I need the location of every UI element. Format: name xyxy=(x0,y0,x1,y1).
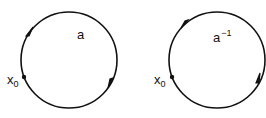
basepoint-label-text: x xyxy=(7,72,14,87)
basepoint-dot xyxy=(170,75,174,79)
basepoint-label: x0 xyxy=(154,73,166,86)
loop-diagram xyxy=(0,0,266,118)
basepoint-dot xyxy=(22,75,26,79)
loop-a-label: a xyxy=(77,28,85,41)
direction-arrow-icon xyxy=(256,73,260,83)
loop-a-inverse xyxy=(169,12,265,108)
direction-arrow-icon xyxy=(108,78,113,88)
loop-label-text: a xyxy=(77,27,84,42)
basepoint-label: x0 xyxy=(7,73,19,86)
loop-label-exponent: −1 xyxy=(221,28,231,38)
loop-a xyxy=(21,12,117,108)
basepoint-label-subscript: 0 xyxy=(161,79,166,89)
direction-arrow-icon xyxy=(181,20,188,28)
loop-a-circle xyxy=(21,12,117,108)
basepoint-label-text: x xyxy=(154,72,161,87)
loop-label-text: a xyxy=(213,30,220,45)
loop-a-inverse-circle xyxy=(169,12,265,108)
direction-arrow-icon xyxy=(26,27,33,36)
basepoint-label-subscript: 0 xyxy=(14,79,19,89)
loop-a-inverse-label: a−1 xyxy=(213,31,232,44)
